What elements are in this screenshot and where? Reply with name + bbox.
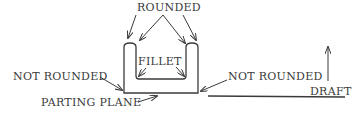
not-rounded-arrow-right [201, 80, 227, 91]
fillet-arrow-right [176, 67, 184, 76]
label-not-rounded-right: NOT ROUNDED [228, 71, 323, 82]
fillet-arrow-left [139, 68, 146, 76]
rounded-arrow-right [183, 15, 196, 40]
rounded-arrow-left [128, 15, 136, 38]
rounded-arrow-center-right [163, 15, 185, 43]
casting-profile [124, 43, 198, 93]
label-draft: DRAFT [310, 86, 352, 97]
rounded-arrow-center-left [140, 15, 163, 40]
label-not-rounded-left: NOT ROUNDED [13, 71, 108, 82]
label-rounded: ROUNDED [137, 2, 201, 13]
label-fillet: FILLET [138, 56, 182, 67]
label-parting-plane: PARTING PLANE [41, 97, 141, 108]
